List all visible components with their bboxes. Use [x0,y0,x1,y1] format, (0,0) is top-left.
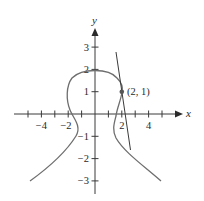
x-tick-label: −2 [60,120,71,131]
y-tick-label: 3 [84,42,89,53]
y-tick-label: −2 [78,153,89,164]
y-tick-label: −1 [78,131,89,142]
x-axis-arrow-icon [175,111,183,118]
point-marker [120,89,125,94]
x-tick-label: 2 [119,120,124,131]
point-label: (2, 1) [127,86,150,98]
x-axis-label: x [185,107,191,119]
y-axis-label: y [91,14,97,26]
x-tick-label: −4 [36,120,48,131]
y-tick-label: 1 [84,86,89,97]
tangent-line [116,52,131,150]
y-axis: 3 2 1 −1 −2 −3 y [78,14,99,194]
x-tick-label: 4 [146,120,152,131]
y-tick-label: 2 [84,64,89,75]
curve-tangent-figure: −4 −2 2 4 x 3 2 1 −1 −2 −3 y (2, 1) [0,0,204,201]
y-tick-label: −3 [78,175,89,186]
x-axis: −4 −2 2 4 x [14,107,191,131]
y-axis-arrow-icon [92,28,99,36]
